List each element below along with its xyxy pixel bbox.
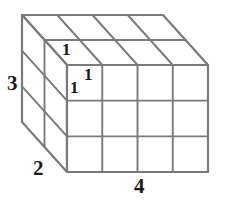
width-dimension-label: 4 bbox=[134, 176, 145, 197]
prism-faces bbox=[22, 15, 208, 172]
depth-dimension-label: 2 bbox=[33, 158, 44, 179]
unit-cube-width-label: 1 bbox=[84, 66, 93, 83]
unit-cube-height-label: 1 bbox=[70, 79, 79, 96]
height-dimension-label: 3 bbox=[7, 73, 18, 94]
unit-cube-depth-label: 1 bbox=[62, 41, 71, 58]
prism-figure: 3 2 4 1 1 1 bbox=[0, 0, 225, 200]
